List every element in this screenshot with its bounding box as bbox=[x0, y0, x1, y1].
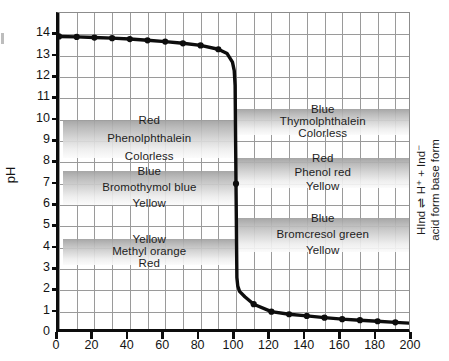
x-axis-tick-mark bbox=[374, 332, 377, 339]
y-axis-tick: 13 bbox=[16, 47, 50, 61]
curve-data-point bbox=[392, 319, 398, 325]
y-axis-tick: 5 bbox=[16, 217, 50, 231]
curve-path bbox=[59, 36, 410, 323]
indicator-equation: HInd ⇌ H⁺ + Ind⁻ bbox=[414, 139, 428, 241]
x-axis-tick: 60 bbox=[142, 338, 182, 352]
x-axis-tick: 80 bbox=[178, 338, 218, 352]
curve-data-point bbox=[74, 34, 80, 40]
curve-data-point bbox=[198, 42, 204, 48]
y-axis-tick: 9 bbox=[16, 132, 50, 146]
y-axis-tick: 2 bbox=[16, 281, 50, 295]
curve-data-point bbox=[127, 36, 133, 42]
y-axis-tick: 0 bbox=[16, 324, 50, 338]
curve-data-point bbox=[109, 35, 115, 41]
y-axis-tick: 14 bbox=[16, 25, 50, 39]
curve-data-point bbox=[56, 33, 62, 39]
x-axis-tick: 120 bbox=[248, 338, 288, 352]
x-axis-tick-mark bbox=[197, 332, 200, 339]
x-axis-tick-mark bbox=[161, 332, 164, 339]
x-axis-tick: 140 bbox=[284, 338, 324, 352]
curve-data-point bbox=[215, 46, 221, 52]
curve-data-point bbox=[162, 38, 168, 44]
x-axis-tick: 20 bbox=[71, 338, 111, 352]
y-axis-tick: 7 bbox=[16, 175, 50, 189]
x-axis-tick-mark bbox=[409, 332, 412, 339]
curve-data-point bbox=[268, 309, 274, 315]
curve-data-point bbox=[144, 37, 150, 43]
curve-data-point bbox=[375, 318, 381, 324]
x-axis-tick-mark bbox=[303, 332, 306, 339]
x-axis-tick-mark bbox=[267, 332, 270, 339]
indicator-forms: acid form base form bbox=[428, 139, 442, 241]
y-axis-tick: 1 bbox=[16, 303, 50, 317]
y-axis-tick: 4 bbox=[16, 239, 50, 253]
x-axis-tick: 40 bbox=[107, 338, 147, 352]
y-axis-tick: 10 bbox=[16, 111, 50, 125]
x-axis-tick: 160 bbox=[319, 338, 359, 352]
x-axis-tick-mark bbox=[232, 332, 235, 339]
curve-data-point bbox=[286, 311, 292, 317]
curve-data-point bbox=[321, 315, 327, 321]
x-axis-tick: 0 bbox=[36, 338, 76, 352]
curve-data-point bbox=[304, 313, 310, 319]
curve-data-point bbox=[357, 317, 363, 323]
curve-data-point bbox=[91, 34, 97, 40]
curve-data-point bbox=[233, 181, 239, 187]
y-axis-tick: 8 bbox=[16, 153, 50, 167]
y-axis-tick: 12 bbox=[16, 68, 50, 82]
indicator-equilibrium-note: HInd ⇌ H⁺ + Ind⁻ acid form base form bbox=[414, 139, 443, 241]
y-axis-tick: 11 bbox=[16, 89, 50, 103]
y-axis-tick: 6 bbox=[16, 196, 50, 210]
x-axis-tick-mark bbox=[338, 332, 341, 339]
curve-data-point bbox=[339, 316, 345, 322]
x-axis-tick: 180 bbox=[355, 338, 395, 352]
x-axis-tick-mark bbox=[126, 332, 129, 339]
edge-artifact bbox=[1, 33, 4, 44]
x-axis-tick-mark bbox=[55, 332, 58, 339]
x-axis-tick: 200 bbox=[390, 338, 430, 352]
curve-data-point bbox=[251, 301, 257, 307]
y-axis-tick: 3 bbox=[16, 260, 50, 274]
x-axis-tick-mark bbox=[90, 332, 93, 339]
curve-data-point bbox=[180, 40, 186, 46]
titration-curve bbox=[59, 13, 410, 332]
x-axis-tick: 100 bbox=[213, 338, 253, 352]
plot-area: RedPhenolphthaleinColorlessBlueBromothym… bbox=[56, 12, 410, 332]
ph-titration-figure: pH 01234567891011121314 0204060801001201… bbox=[0, 0, 449, 361]
